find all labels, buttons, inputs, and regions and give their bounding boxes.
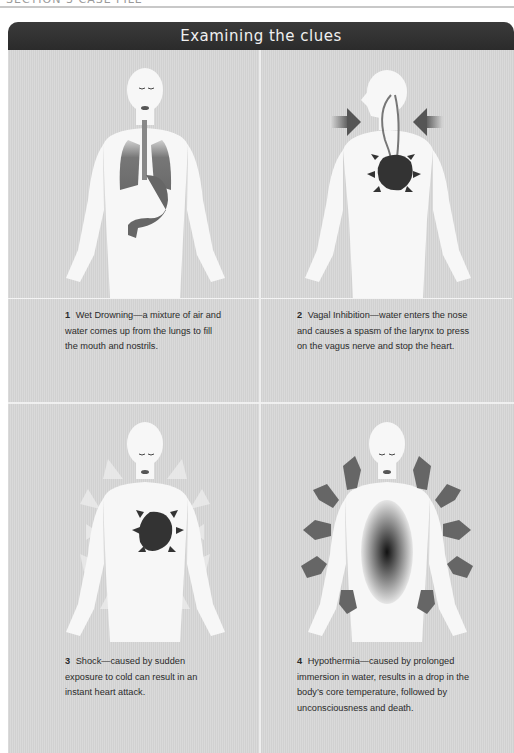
vagal-inhibition-illustration: [261, 50, 512, 298]
clue-number: 4: [297, 656, 302, 666]
clue-text: Wet Drowning—a mixture of air and water …: [65, 310, 221, 351]
body-silhouette-icon: [66, 68, 225, 298]
header-rule: [0, 6, 514, 8]
clue-caption-2: 2 Vagal Inhibition—water enters the nose…: [297, 308, 477, 355]
clue-caption-1: 1 Wet Drowning—a mixture of air and wate…: [65, 308, 225, 355]
clue-caption-3: 3 Shock—caused by sudden exposure to col…: [65, 654, 225, 701]
clue-caption-4: 4 Hypothermia—caused by prolonged immers…: [297, 654, 477, 716]
inward-arrow-left-icon: [331, 108, 361, 136]
hypothermia-illustration: [261, 404, 512, 642]
clue-text: Hypothermia—caused by prolonged immersio…: [297, 656, 469, 713]
clue-text: Vagal Inhibition—water enters the nose a…: [297, 310, 469, 351]
clue-cell-3: 3 Shock—caused by sudden exposure to col…: [8, 404, 259, 753]
image-caption-divider: [261, 298, 512, 299]
panel-header: Examining the clues: [8, 22, 514, 50]
page-running-header: SECTION 3 CASE FILE: [0, 0, 514, 7]
core-temperature-gradient: [361, 500, 413, 604]
clue-cell-2: 2 Vagal Inhibition—water enters the nose…: [261, 50, 512, 402]
wet-drowning-illustration: [8, 50, 259, 298]
shock-illustration: [8, 404, 259, 642]
clue-number: 1: [65, 310, 70, 320]
clue-number: 3: [65, 656, 70, 666]
image-caption-divider: [8, 298, 259, 299]
clue-cell-4: 4 Hypothermia—caused by prolonged immers…: [261, 404, 512, 753]
clue-text: Shock—caused by sudden exposure to cold …: [65, 656, 197, 697]
inward-arrow-right-icon: [413, 108, 443, 136]
panel-title: Examining the clues: [8, 27, 514, 45]
clues-panel: Examining the clues: [8, 22, 514, 753]
clue-cell-1: 1 Wet Drowning—a mixture of air and wate…: [8, 50, 259, 402]
horizontal-divider: [8, 402, 514, 404]
clue-number: 2: [297, 310, 302, 320]
